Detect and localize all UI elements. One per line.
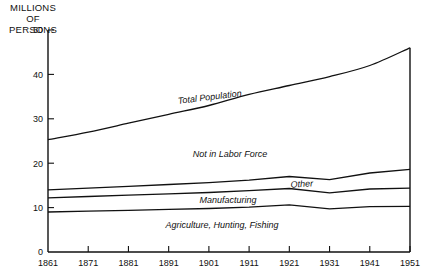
band-label-manufacturing: Manufacturing [199,195,256,205]
x-tick-label-1881: 1881 [118,258,138,268]
y-tick-label-30: 30 [33,114,43,124]
x-tick-label-1951: 1951 [400,258,420,268]
x-tick-label-1911: 1911 [239,258,258,268]
y-tick-label-20: 20 [33,159,43,169]
band-label-not-in-labor-force: Not in Labor Force [193,149,268,159]
y-tick-label-0: 0 [38,247,43,257]
x-tick-label-1931: 1931 [320,258,340,268]
series-line-agriculture-hunting-fishing [48,205,410,212]
chart-plot-area: 0102030405018611871188118911901191119211… [0,0,429,276]
y-tick-label-50: 50 [33,25,43,35]
y-tick-label-10: 10 [33,203,43,213]
y-tick-label-40: 40 [33,70,43,80]
band-label-total-population: Total Population [177,88,242,106]
band-label-other: Other [290,178,314,190]
x-tick-label-1861: 1861 [38,258,58,268]
x-tick-label-1891: 1891 [159,258,179,268]
chart-figure: MILLIONS OF PERSONS 01020304050186118711… [0,0,429,276]
x-tick-label-1901: 1901 [199,258,219,268]
band-label-agriculture-hunting-fishing: Agriculture, Hunting, Fishing [164,220,278,230]
x-tick-label-1941: 1941 [360,258,380,268]
series-line-other [48,169,410,189]
x-tick-label-1921: 1921 [279,258,299,268]
x-tick-label-1871: 1871 [78,258,98,268]
